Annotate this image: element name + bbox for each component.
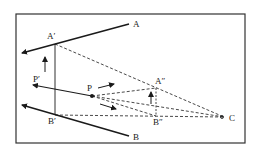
arrow-p-up-right (98, 84, 114, 88)
perspective-diagram: A A′ A″ B B′ B″ P P′ C (0, 0, 258, 155)
label-a-prime: A′ (47, 31, 55, 41)
arrow-p-down-right (100, 104, 116, 109)
label-b-prime: B′ (48, 116, 56, 126)
label-c: C (229, 113, 235, 123)
label-a-dprime: A″ (155, 76, 165, 86)
label-p-prime: P′ (33, 74, 40, 84)
label-b-dprime: B″ (153, 117, 163, 127)
dashed-projection-lines (55, 44, 224, 117)
label-b: B (133, 132, 139, 142)
line-p-arrow (33, 85, 92, 96)
label-a: A (133, 19, 140, 29)
line-a-arrow (22, 24, 129, 53)
label-p: P (87, 83, 92, 93)
point-p-dot (90, 94, 94, 98)
line-b-arrow (22, 105, 129, 136)
